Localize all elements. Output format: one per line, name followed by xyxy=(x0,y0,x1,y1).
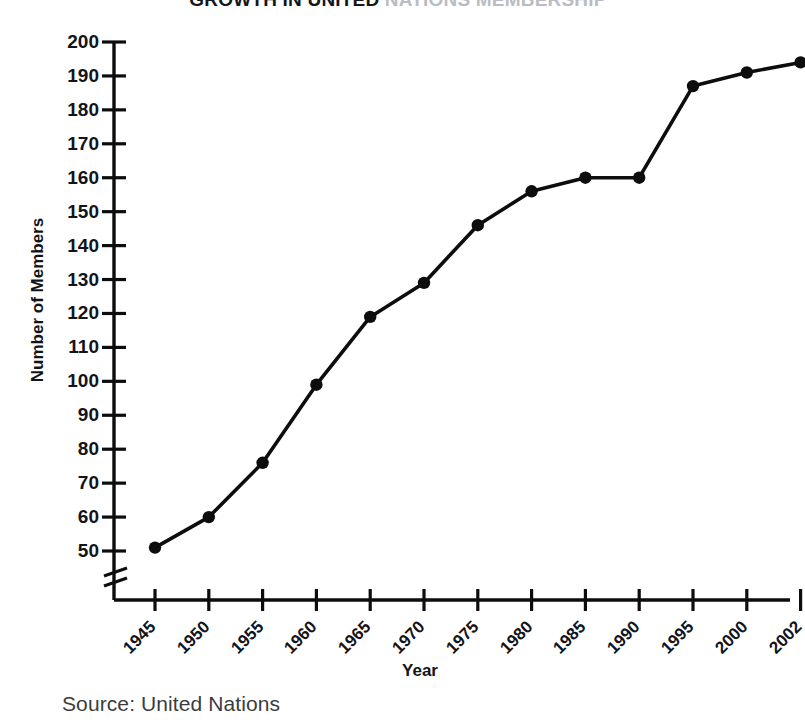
data-point-marker xyxy=(149,541,161,553)
data-point-marker xyxy=(579,172,591,184)
data-point-marker xyxy=(203,511,215,523)
data-point-marker xyxy=(472,219,484,231)
data-point-marker xyxy=(741,66,753,78)
data-point-marker xyxy=(794,56,805,68)
data-point-marker xyxy=(418,277,430,289)
data-point-marker xyxy=(633,172,645,184)
data-point-marker xyxy=(525,185,537,197)
source-caption: Source: United Nations xyxy=(62,692,280,716)
series-line xyxy=(155,62,801,547)
data-point-marker xyxy=(256,457,268,469)
data-point-marker xyxy=(310,379,322,391)
data-point-marker xyxy=(687,80,699,92)
data-point-marker xyxy=(364,311,376,323)
